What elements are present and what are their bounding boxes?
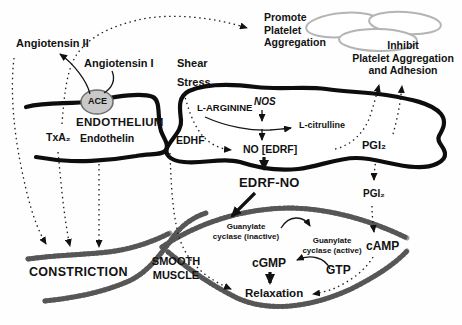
line-angiotensin1-to-ace <box>104 71 114 93</box>
label-angiotensin1: Angiotensin I <box>84 57 154 70</box>
label-shear-stress: Shear Stress <box>177 54 211 91</box>
path-pgi2-to-camp <box>372 206 374 232</box>
label-relaxation: Relaxation <box>245 287 303 300</box>
label-no-edrf: NO [EDRF] <box>243 143 297 155</box>
label-inhibit-platelet-aggregation: Inhibit Platelet Aggregation and Adhesio… <box>347 39 459 77</box>
label-nos: NOS <box>254 96 276 108</box>
label-camp: cAMP <box>366 240 399 254</box>
label-edrf-no: EDRF-NO <box>239 176 300 191</box>
label-ace: ACE <box>84 96 111 106</box>
label-l-arginine: L-ARGININE <box>197 103 252 114</box>
label-angiotensin2: Angiotensin II <box>16 37 89 50</box>
pathway-diagram: Angiotensin II Angiotensin I Shear Stres… <box>0 0 462 325</box>
label-gtp: GTP <box>326 264 351 278</box>
label-l-citrulline: L-citrulline <box>299 120 345 130</box>
path-txa2-to-constriction <box>58 152 70 246</box>
label-txa2: TxA₂ <box>46 131 71 143</box>
label-pgi2-cell: PGI₂ <box>362 139 386 152</box>
label-cgmp: cGMP <box>252 257 286 271</box>
label-guanylate-cyclase-active: Guanylate cyclase (active) <box>301 236 363 256</box>
label-pgi2-mid: PGI₂ <box>363 188 385 200</box>
label-constriction: CONSTRICTION <box>29 265 128 279</box>
arrow-gc-inactive-to-active <box>281 218 310 228</box>
label-endothelium: ENDOTHELIUM <box>76 116 164 129</box>
label-smooth-muscle: SMOOTH MUSCLE <box>149 254 203 283</box>
label-endothelin: Endothelin <box>80 132 134 144</box>
label-edhf: EDHF <box>176 134 205 146</box>
label-guanylate-cyclase-inactive: Guanylate cyclase (inactive) <box>211 222 281 242</box>
label-promote-platelet-aggregation: Promote Platelet Aggregation <box>264 11 326 49</box>
path-angiotensin2-to-constriction <box>12 58 46 244</box>
